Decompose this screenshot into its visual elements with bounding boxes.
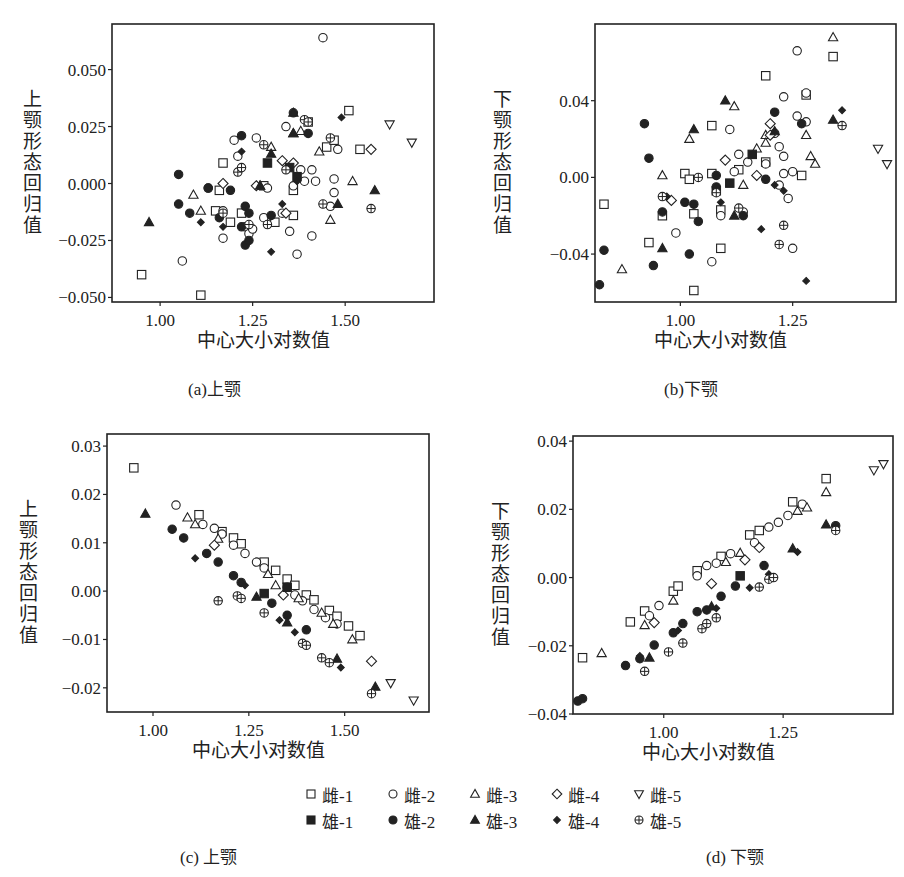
caption-d: (d) 下颚 <box>706 843 764 868</box>
circle-solid-icon <box>387 814 399 826</box>
triangle-down-open-icon <box>633 788 645 800</box>
square-open-icon <box>305 788 317 800</box>
svg-text:1.00: 1.00 <box>665 311 695 330</box>
scatter-plot-lower-jaw-adjusted: 0.040.020.00−0.02−0.041.001.25中心大小对数值下颚形… <box>450 410 904 780</box>
svg-text:中心大小对数值: 中心大小对数值 <box>192 740 325 761</box>
svg-text:归: 归 <box>23 194 42 215</box>
legend-item: 雌-1 <box>305 782 387 807</box>
svg-text:归: 归 <box>19 604 38 625</box>
svg-text:−0.04: −0.04 <box>550 245 590 264</box>
panel-a: 0.0500.0250.000−0.025−0.0501.001.251.50中… <box>0 0 450 410</box>
legend-item: 雌-2 <box>387 782 469 807</box>
svg-text:0.00: 0.00 <box>537 569 567 588</box>
caption-b: (b)下颚 <box>664 375 718 400</box>
legend-label: 雌-3 <box>486 782 517 807</box>
legend: 雌-1 雌-2 雌-3 雌-4 雌-5 雄-1 雄-2 雄-3 雄-4 雄-5 <box>305 781 725 833</box>
svg-text:0.000: 0.000 <box>68 175 106 194</box>
svg-text:0.02: 0.02 <box>71 485 101 504</box>
legend-item: 雄-1 <box>305 808 387 833</box>
svg-text:0.02: 0.02 <box>537 500 567 519</box>
diamond-solid-icon <box>551 814 563 826</box>
circle-open-icon <box>387 788 399 800</box>
svg-text:−0.02: −0.02 <box>528 637 567 656</box>
svg-text:0.04: 0.04 <box>559 92 589 111</box>
svg-text:0.00: 0.00 <box>559 168 589 187</box>
svg-text:−0.050: −0.050 <box>58 288 106 307</box>
svg-text:0.01: 0.01 <box>71 534 101 553</box>
svg-text:颚: 颚 <box>491 522 510 543</box>
legend-label: 雌-4 <box>568 782 599 807</box>
svg-text:态: 态 <box>23 152 42 173</box>
panel-b: 0.040.00−0.041.001.25中心大小对数值下颚形态回归值 <box>450 0 904 410</box>
svg-text:上: 上 <box>19 499 38 520</box>
caption-c: (c) 上颚 <box>180 843 237 868</box>
caption-a: (a)上颚 <box>188 375 241 400</box>
legend-item: 雄-5 <box>633 808 715 833</box>
svg-text:1.25: 1.25 <box>778 311 808 330</box>
svg-text:1.25: 1.25 <box>768 723 798 742</box>
svg-text:−0.025: −0.025 <box>58 231 106 250</box>
legend-row-female: 雌-1 雌-2 雌-3 雌-4 雌-5 <box>305 781 725 807</box>
legend-label: 雄-3 <box>486 808 517 833</box>
svg-text:态: 态 <box>491 564 510 585</box>
scatter-plot-upper-jaw-adjusted: 0.030.020.010.00−0.01−0.021.001.251.50中心… <box>0 410 450 780</box>
scatter-plot-lower-jaw-raw: 0.040.00−0.041.001.25中心大小对数值下颚形态回归值 <box>450 0 904 360</box>
svg-text:0.04: 0.04 <box>537 432 567 451</box>
svg-text:1.00: 1.00 <box>138 721 168 740</box>
svg-text:形: 形 <box>19 541 38 562</box>
svg-text:1.50: 1.50 <box>330 721 360 740</box>
svg-text:形: 形 <box>23 131 42 152</box>
svg-text:−0.02: −0.02 <box>62 679 101 698</box>
svg-text:−0.01: −0.01 <box>62 630 101 649</box>
svg-text:值: 值 <box>19 625 38 646</box>
svg-text:1.25: 1.25 <box>234 721 264 740</box>
svg-text:0.050: 0.050 <box>68 61 106 80</box>
svg-text:1.25: 1.25 <box>238 311 268 330</box>
scatter-plot-upper-jaw-raw: 0.0500.0250.000−0.025−0.0501.001.251.50中… <box>0 0 450 360</box>
square-solid-icon <box>305 814 317 826</box>
triangle-up-open-icon <box>469 788 481 800</box>
svg-text:态: 态 <box>19 562 38 583</box>
triangle-up-solid-icon <box>469 814 481 826</box>
svg-text:颚: 颚 <box>493 110 512 131</box>
svg-text:归: 归 <box>491 606 510 627</box>
legend-item: 雌-3 <box>469 782 551 807</box>
svg-text:回: 回 <box>491 585 510 606</box>
svg-text:回: 回 <box>19 583 38 604</box>
svg-text:回: 回 <box>493 173 512 194</box>
svg-text:归: 归 <box>493 194 512 215</box>
svg-text:下: 下 <box>493 89 512 110</box>
svg-text:颚: 颚 <box>19 520 38 541</box>
svg-text:中心大小对数值: 中心大小对数值 <box>654 330 787 351</box>
panel-c: 0.030.020.010.00−0.01−0.021.001.251.50中心… <box>0 410 450 780</box>
legend-item: 雌-5 <box>633 782 715 807</box>
svg-text:形: 形 <box>493 131 512 152</box>
legend-item: 雌-4 <box>551 782 633 807</box>
svg-text:1.00: 1.00 <box>145 311 175 330</box>
svg-text:0.03: 0.03 <box>71 437 101 456</box>
svg-text:形: 形 <box>491 543 510 564</box>
svg-text:颚: 颚 <box>23 110 42 131</box>
legend-label: 雌-2 <box>404 782 435 807</box>
svg-text:−0.04: −0.04 <box>528 705 568 724</box>
svg-text:值: 值 <box>491 627 510 648</box>
svg-text:值: 值 <box>23 215 42 236</box>
legend-item: 雄-3 <box>469 808 551 833</box>
legend-item: 雄-4 <box>551 808 633 833</box>
legend-label: 雄-2 <box>404 808 435 833</box>
svg-text:态: 态 <box>493 152 512 173</box>
svg-text:中心大小对数值: 中心大小对数值 <box>642 742 775 763</box>
legend-label: 雌-1 <box>322 782 353 807</box>
panel-d: 0.040.020.00−0.02−0.041.001.25中心大小对数值下颚形… <box>450 410 904 780</box>
diamond-open-icon <box>551 788 563 800</box>
legend-label: 雄-1 <box>322 808 353 833</box>
svg-text:上: 上 <box>23 89 42 110</box>
legend-label: 雌-5 <box>650 782 681 807</box>
circle-plus-icon <box>633 814 645 826</box>
svg-text:0.00: 0.00 <box>71 582 101 601</box>
legend-label: 雄-5 <box>650 808 681 833</box>
svg-text:中心大小对数值: 中心大小对数值 <box>197 330 330 351</box>
legend-row-male: 雄-1 雄-2 雄-3 雄-4 雄-5 <box>305 807 725 833</box>
svg-text:1.00: 1.00 <box>649 723 679 742</box>
svg-text:值: 值 <box>493 215 512 236</box>
